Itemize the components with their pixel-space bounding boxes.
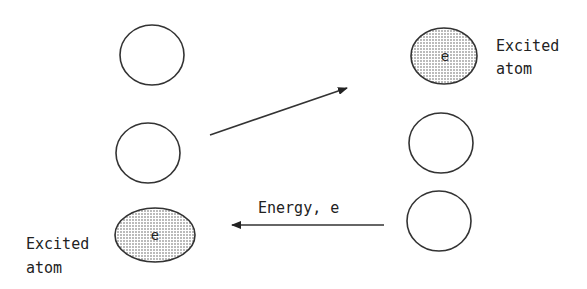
atom-left-middle [116,123,180,183]
excited-atom-label-right-line1: Excited [496,37,559,55]
energy-transfer-diagram: e Excited atom e Excited atom Energy, e [0,0,587,289]
excited-atom-label-left-line1: Excited [26,235,89,253]
excitation-arrow [210,88,347,135]
excited-atom-label-right-line2: atom [496,60,532,78]
electron-label-top: e [441,48,449,64]
energy-label: Energy, e [258,199,339,217]
atom-left-top [120,25,184,85]
electron-label-bottom: e [151,227,159,243]
atom-right-middle [409,113,473,173]
excited-atom-label-left-line2: atom [26,259,62,277]
atom-right-bottom [407,191,471,251]
